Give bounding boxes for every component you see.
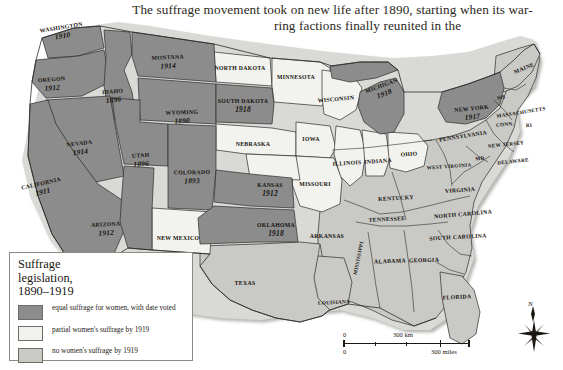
legend-label: equal suffrage for women, with date vote… bbox=[52, 304, 176, 313]
legend-title-line-2: legislation, bbox=[18, 271, 73, 285]
legend-swatch bbox=[18, 348, 43, 363]
scale-miles-max: 300 miles bbox=[431, 348, 457, 355]
compass-rose: N bbox=[512, 300, 556, 352]
scale-bar: 0 300 km 0 300 miles bbox=[343, 331, 469, 357]
map-legend: Suffrage legislation, 1890–1919 equal su… bbox=[9, 252, 193, 361]
legend-row: equal suffrage for women, with date vote… bbox=[18, 304, 185, 320]
compass-north-label: N bbox=[528, 300, 533, 308]
legend-title: Suffrage legislation, 1890–1919 bbox=[18, 258, 185, 299]
legend-row: partial women's suffrage by 1919 bbox=[18, 325, 185, 341]
map-figure: The suffrage movement took on new life a… bbox=[0, 0, 563, 370]
scale-km-max: 300 km bbox=[393, 331, 413, 338]
legend-row: no women's suffrage by 1919 bbox=[18, 347, 185, 363]
legend-title-line-1: Suffrage bbox=[18, 257, 60, 271]
compass-star-icon bbox=[512, 300, 556, 352]
legend-label: partial women's suffrage by 1919 bbox=[52, 325, 149, 334]
legend-swatch bbox=[18, 305, 43, 320]
scale-miles-labels: 0 300 miles bbox=[343, 348, 469, 357]
legend-label: no women's suffrage by 1919 bbox=[52, 347, 138, 356]
legend-title-line-3: 1890–1919 bbox=[18, 284, 74, 298]
scale-km-zero: 0 bbox=[343, 331, 346, 338]
scale-bar-graphic bbox=[343, 340, 469, 347]
legend-items: equal suffrage for women, with date vote… bbox=[18, 304, 185, 363]
scale-km-labels: 0 300 km bbox=[343, 331, 469, 340]
scale-miles-zero: 0 bbox=[343, 348, 346, 355]
legend-swatch bbox=[18, 326, 43, 341]
